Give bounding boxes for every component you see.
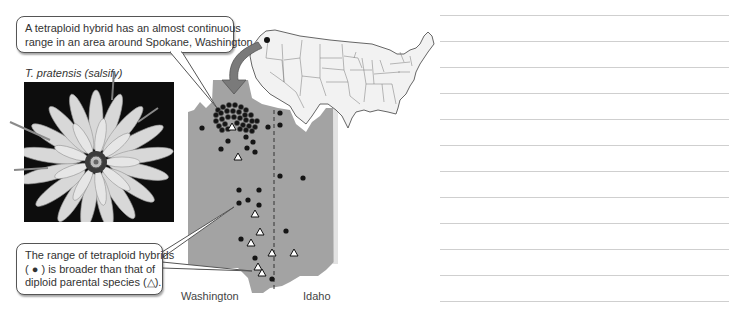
note-line <box>440 249 729 250</box>
note-line <box>440 93 729 94</box>
state-label-washington: Washington <box>181 290 239 302</box>
note-line <box>440 275 729 276</box>
note-line <box>440 171 729 172</box>
callout-text-line: diploid parental species (△). <box>25 276 154 290</box>
note-line <box>440 197 729 198</box>
note-line <box>440 119 729 120</box>
spokane-location-dot <box>264 37 270 43</box>
state-label-idaho: Idaho <box>303 290 331 302</box>
callout-text-line: The range of tetraploid hybrids <box>25 249 154 263</box>
callout-hybrid-range: The range of tetraploid hybrids ( ● ) is… <box>16 243 163 295</box>
note-line <box>440 67 729 68</box>
notes-ruled-area[interactable] <box>440 0 730 324</box>
note-line <box>440 15 729 16</box>
callout-text-line: ( ● ) is broader than that of <box>25 263 154 277</box>
callout-top-pointer <box>170 52 217 108</box>
note-line <box>440 41 729 42</box>
note-line <box>440 223 729 224</box>
note-line <box>440 301 729 302</box>
note-line <box>440 145 729 146</box>
